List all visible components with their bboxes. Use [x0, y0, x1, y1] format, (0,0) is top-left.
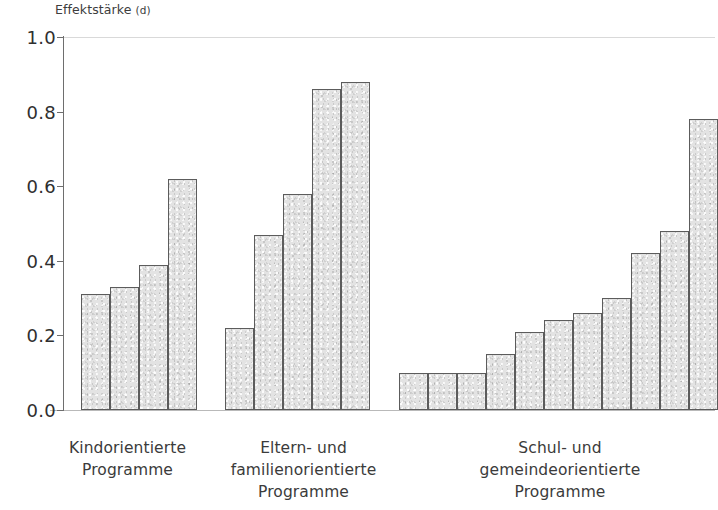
- x-axis-category-label: Schul- und gemeindeorientierte Programme: [430, 437, 690, 503]
- y-axis-tick-label: 0.6: [0, 176, 56, 197]
- bar: [660, 231, 689, 410]
- bar: [341, 82, 370, 410]
- bar: [689, 119, 718, 410]
- y-axis-tick-label: 1.0: [0, 27, 56, 48]
- bar: [544, 320, 573, 410]
- bar: [283, 194, 312, 410]
- x-axis-category-label: Eltern- und familienorientierte Programm…: [196, 437, 411, 503]
- bar: [81, 294, 110, 410]
- bar: [225, 328, 254, 410]
- bar: [168, 179, 197, 410]
- bar: [515, 332, 544, 410]
- bar: [602, 298, 631, 410]
- y-axis-tick-mark: [57, 410, 64, 411]
- plot-area: [63, 37, 715, 410]
- bar: [254, 235, 283, 410]
- y-axis-tick-label: 0.2: [0, 325, 56, 346]
- x-axis-line: [50, 410, 715, 411]
- bar: [139, 265, 168, 410]
- bar: [399, 373, 428, 410]
- y-axis-title-unit: (d): [136, 4, 151, 16]
- y-axis-tick-label: 0.0: [0, 400, 56, 421]
- y-axis-title-name: Effektstärke: [55, 2, 131, 17]
- y-axis-title: Effektstärke (d): [55, 2, 151, 17]
- bar: [110, 287, 139, 410]
- bar: [457, 373, 486, 410]
- y-axis-tick-label: 0.8: [0, 101, 56, 122]
- bar: [573, 313, 602, 410]
- bar: [486, 354, 515, 410]
- bar: [428, 373, 457, 410]
- bar: [312, 89, 341, 410]
- bar: [631, 253, 660, 410]
- y-axis-tick-label: 0.4: [0, 250, 56, 271]
